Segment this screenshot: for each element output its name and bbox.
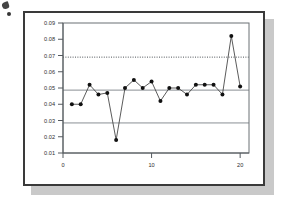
data-point: [229, 34, 233, 38]
plot-frame: [63, 23, 249, 153]
data-point: [105, 91, 109, 95]
data-point: [88, 83, 92, 87]
y-axis-tick-label: 0.07: [44, 53, 55, 59]
y-axis-tick-label: 0.08: [44, 36, 55, 42]
y-axis-tick-label: 0.01: [44, 150, 55, 156]
y-axis-tick-label: 0.02: [44, 134, 55, 140]
control-chart: 0.010.020.030.040.050.060.070.080.09 010…: [25, 13, 263, 184]
y-axis-tick-label: 0.05: [44, 85, 55, 91]
data-point: [185, 93, 189, 97]
y-axis-group: 0.010.020.030.040.050.060.070.080.09: [44, 20, 63, 156]
data-point: [70, 102, 74, 106]
data-point: [79, 102, 83, 106]
control-chart-svg: 0.010.020.030.040.050.060.070.080.09 010…: [25, 13, 263, 184]
reference-lines-group: [63, 57, 249, 123]
data-point: [194, 83, 198, 87]
data-point: [167, 86, 171, 90]
x-axis-group: 01020: [61, 153, 249, 168]
series-line: [72, 36, 240, 140]
data-point: [220, 93, 224, 97]
data-point: [96, 93, 100, 97]
data-point: [114, 138, 118, 142]
x-axis-tick-label: 10: [148, 162, 154, 168]
data-point: [238, 84, 242, 88]
data-point: [132, 78, 136, 82]
ink-blob-upper-icon: [1, 1, 10, 10]
x-axis-tick-label: 20: [237, 162, 243, 168]
ink-blob-lower-icon: [7, 12, 11, 16]
chart-panel: 0.010.020.030.040.050.060.070.080.09 010…: [23, 11, 265, 186]
data-point: [203, 83, 207, 87]
data-point: [158, 99, 162, 103]
y-axis-tick-label: 0.04: [44, 101, 55, 107]
series-line-group: [72, 36, 240, 140]
data-point: [176, 86, 180, 90]
data-point: [212, 83, 216, 87]
y-axis-tick-label: 0.03: [44, 118, 55, 124]
data-point: [141, 86, 145, 90]
data-point: [150, 80, 154, 84]
data-point: [123, 86, 127, 90]
y-axis-tick-label: 0.06: [44, 69, 55, 75]
scan-artifact-mark: [2, 2, 16, 20]
y-axis-tick-label: 0.09: [44, 20, 55, 26]
plot-frame-group: [63, 23, 249, 153]
x-axis-tick-label: 0: [61, 162, 64, 168]
